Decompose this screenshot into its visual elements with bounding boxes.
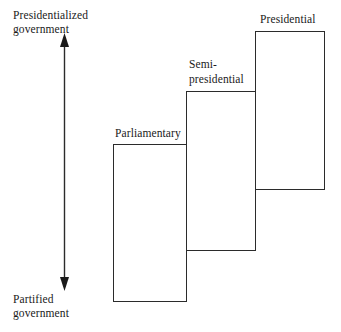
regime-label-presidential: Presidential xyxy=(260,12,316,27)
regime-box-semi-presidential xyxy=(186,91,256,251)
vertical-double-arrow-icon xyxy=(52,32,78,292)
regime-box-parliamentary xyxy=(113,144,187,302)
regime-label-semi-presidential: Semi- presidential xyxy=(189,57,244,86)
regime-label-parliamentary: Parliamentary xyxy=(115,126,181,141)
axis-bottom-label: Partified government xyxy=(13,292,69,320)
presidentialization-diagram: Presidentialized government Partified go… xyxy=(0,0,341,332)
regime-box-presidential xyxy=(255,31,325,190)
